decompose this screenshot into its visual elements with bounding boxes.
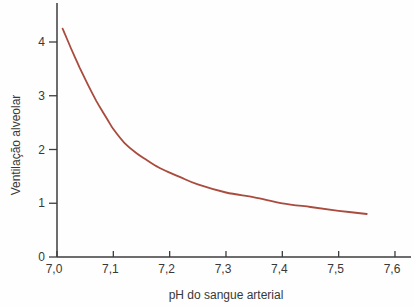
x-tick-label: 7,2 <box>158 262 175 276</box>
x-tick-label: 7,1 <box>102 262 119 276</box>
x-axis-title: pH do sangue arterial <box>169 288 284 302</box>
x-tick-label: 7,3 <box>215 262 232 276</box>
x-tick-label: 7,0 <box>46 262 63 276</box>
x-tick-label: 7,5 <box>327 262 344 276</box>
x-tick-label: 7,6 <box>384 262 401 276</box>
chart-figure: 7,07,17,27,37,47,57,601234 Ventilação al… <box>0 0 415 307</box>
x-tick-label: 7,4 <box>271 262 288 276</box>
y-tick-label: 2 <box>38 143 45 157</box>
y-tick-label: 1 <box>38 196 45 210</box>
y-tick-label: 4 <box>38 35 45 49</box>
data-curve <box>63 29 367 214</box>
y-axis-title: Ventilação alveolar <box>9 95 23 196</box>
y-tick-label: 3 <box>38 89 45 103</box>
chart-canvas: 7,07,17,27,37,47,57,601234 <box>0 0 415 307</box>
y-tick-label: 0 <box>38 250 45 264</box>
